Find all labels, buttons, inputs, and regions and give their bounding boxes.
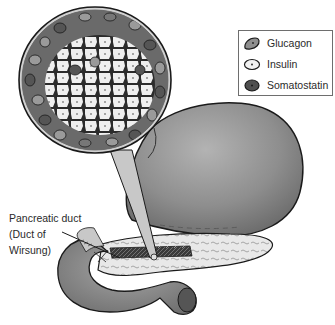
legend-label: Insulin <box>267 58 297 70</box>
legend-label: Somatostatin <box>267 79 328 91</box>
legend-item-insulin: Insulin <box>243 55 297 73</box>
islet-magnified-view <box>18 7 173 153</box>
legend-label: Glucagon <box>267 37 312 49</box>
somatostatin-cell-icon <box>243 78 261 93</box>
pancreatic-duct-label: Pancreatic duct (Duct of Wirsung) <box>9 210 81 258</box>
legend: Glucagon Insulin Somatostatin <box>238 30 333 96</box>
callout-line: Pancreatic duct <box>9 210 81 226</box>
callout-line: Wirsung) <box>9 242 81 258</box>
callout-line: (Duct of <box>9 226 81 242</box>
legend-item-somatostatin: Somatostatin <box>243 76 328 94</box>
glucagon-cell-icon <box>243 36 261 51</box>
pancreas <box>98 233 273 275</box>
insulin-cell-icon <box>243 57 261 72</box>
legend-item-glucagon: Glucagon <box>243 34 312 52</box>
